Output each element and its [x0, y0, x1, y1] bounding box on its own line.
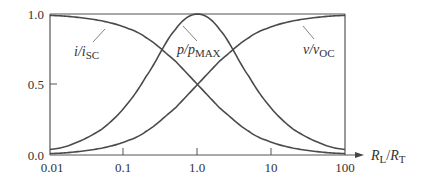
- curve-label-p-pmax: p/pMAX: [176, 42, 221, 59]
- x-tick-100: 100: [335, 160, 355, 175]
- curve-v-v-oc: [50, 15, 345, 153]
- curves: [50, 14, 345, 154]
- curve-p-p-max: [50, 14, 345, 150]
- y-tick-0.5: 0.5: [28, 77, 44, 92]
- x-tick-10: 10: [265, 160, 278, 175]
- plot-frame: [50, 14, 360, 155]
- y-tick-1.0: 1.0: [28, 7, 44, 22]
- x-axis-label: RL/RT: [370, 148, 406, 165]
- power-transfer-chart: 1.0 0.5 0.0 0.01 0.1 1.0 10 100 RL/RT i/…: [0, 0, 423, 182]
- x-tick-1.0: 1.0: [189, 160, 205, 175]
- leader-i: [93, 29, 105, 42]
- ticks: [50, 84, 271, 155]
- x-tick-0.01: 0.01: [41, 160, 64, 175]
- x-tick-0.1: 0.1: [115, 160, 131, 175]
- curve-label-v-voc: v/vOC: [303, 42, 335, 59]
- leader-v: [303, 26, 314, 39]
- leader-p: [183, 26, 197, 41]
- curve-label-i-isc: i/iSC: [74, 44, 99, 61]
- x-axis-arrow-icon: [355, 152, 364, 158]
